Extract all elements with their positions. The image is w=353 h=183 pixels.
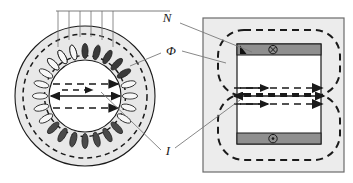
label-current-I: I bbox=[165, 143, 171, 158]
label-turns-N: N bbox=[162, 10, 173, 25]
top-conductor-bar bbox=[237, 44, 321, 55]
machine-flux-diagram: N Φ I bbox=[0, 0, 353, 183]
label-flux-phi: Φ bbox=[166, 43, 176, 58]
figure-root: N Φ I bbox=[0, 0, 353, 183]
bottom-conductor-bar bbox=[237, 133, 321, 144]
slot-light bbox=[122, 93, 137, 99]
left-cross-section-view bbox=[15, 11, 170, 166]
slot-dark bbox=[82, 43, 88, 58]
slot-light bbox=[32, 93, 47, 99]
slot-dark bbox=[82, 133, 88, 148]
